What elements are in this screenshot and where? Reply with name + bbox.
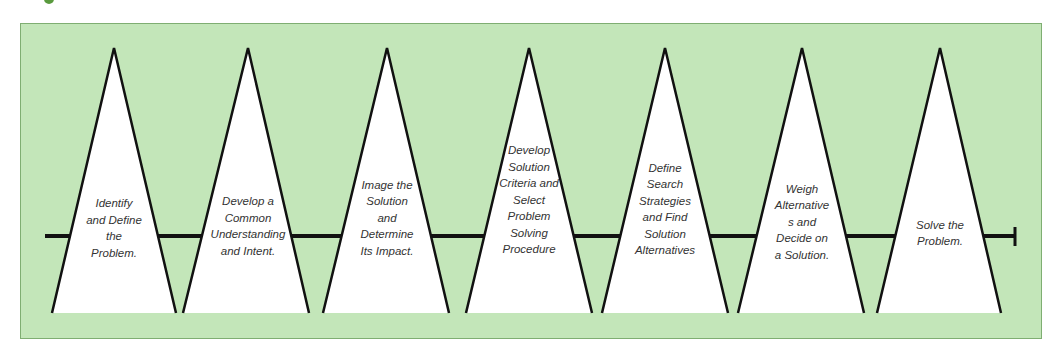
step-label: DefineSearchStrategiesand FindSolutionAl… bbox=[610, 160, 720, 259]
step-label-line: Procedure bbox=[474, 241, 584, 258]
step-label-line: Decide on bbox=[747, 230, 857, 247]
step-label-line: Image the bbox=[332, 177, 442, 194]
step-label-line: Strategies bbox=[610, 193, 720, 210]
step-label-line: and Intent. bbox=[193, 243, 303, 260]
step-label-line: a Solution. bbox=[747, 247, 857, 264]
step-label-line: Determine bbox=[332, 226, 442, 243]
step-label-line: and bbox=[332, 210, 442, 227]
step-label-line: Select bbox=[474, 192, 584, 209]
step-label: DevelopSolutionCriteria andSelectProblem… bbox=[474, 142, 584, 258]
step-label: Identifyand DefinetheProblem. bbox=[59, 195, 169, 261]
step-label-line: Problem. bbox=[59, 245, 169, 262]
step-label-line: Solving bbox=[474, 225, 584, 242]
step-label-line: Search bbox=[610, 176, 720, 193]
step-label-line: Understanding bbox=[193, 226, 303, 243]
step-label-line: and Define bbox=[59, 212, 169, 229]
step-label-line: Develop a bbox=[193, 193, 303, 210]
step-label-line: Solution bbox=[610, 226, 720, 243]
step-label-line: and Find bbox=[610, 209, 720, 226]
step-label-line: Develop bbox=[474, 142, 584, 159]
step-label-line: Alternatives bbox=[610, 242, 720, 259]
step-label-line: Problem. bbox=[885, 233, 995, 250]
step-label-line: Its Impact. bbox=[332, 243, 442, 260]
step-label: WeighAlternatives andDecide ona Solution… bbox=[747, 181, 857, 264]
step-label: Solve theProblem. bbox=[885, 217, 995, 250]
step-label-line: Define bbox=[610, 160, 720, 177]
step-label-line: s and bbox=[747, 214, 857, 231]
step-triangle bbox=[877, 48, 1001, 313]
step-triangle bbox=[52, 48, 176, 313]
step-label-line: Solve the bbox=[885, 217, 995, 234]
step-label-line: Solution bbox=[474, 159, 584, 176]
step-label-line: the bbox=[59, 228, 169, 245]
step-label-line: Weigh bbox=[747, 181, 857, 198]
step-label: Develop aCommonUnderstandingand Intent. bbox=[193, 193, 303, 259]
step-label-line: Criteria and bbox=[474, 175, 584, 192]
step-label-line: Problem bbox=[474, 208, 584, 225]
step-label-line: Common bbox=[193, 210, 303, 227]
step-label-line: Identify bbox=[59, 195, 169, 212]
step-label-line: Alternative bbox=[747, 197, 857, 214]
step-label: Image theSolutionandDetermineIts Impact. bbox=[332, 177, 442, 260]
step-triangle bbox=[183, 48, 309, 313]
step-label-line: Solution bbox=[332, 193, 442, 210]
